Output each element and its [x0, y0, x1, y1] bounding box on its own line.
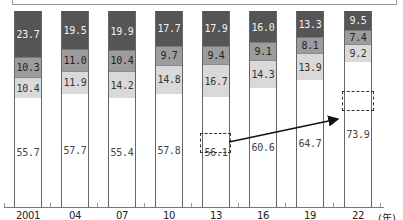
x-axis-tick	[50, 203, 51, 207]
segment-2: 8.1	[297, 37, 323, 53]
x-axis-unit: (年)	[378, 210, 396, 220]
value-label: 9.5	[349, 15, 366, 26]
value-label: 8.1	[301, 40, 318, 51]
segment-1: 11.9	[62, 71, 88, 94]
value-label: 57.7	[64, 145, 87, 156]
bar-16: 60.614.39.116.0	[249, 11, 277, 207]
x-tick-label: 13	[196, 210, 236, 220]
value-label: 13.3	[299, 19, 322, 30]
value-label: 14.2	[111, 80, 134, 91]
x-tick-label: 2001	[8, 210, 48, 220]
segment-0: 64.7	[297, 80, 323, 207]
highlight-box-22	[342, 91, 374, 111]
segment-3: 17.9	[203, 11, 229, 46]
x-tick-label: 16	[243, 210, 283, 220]
value-label: 16.7	[205, 76, 228, 87]
value-label: 73.9	[347, 129, 370, 140]
segment-1: 10.4	[15, 77, 41, 97]
value-label: 64.7	[299, 138, 322, 149]
value-label: 10.4	[111, 55, 134, 66]
value-label: 16.0	[252, 22, 275, 33]
value-label: 19.5	[64, 25, 87, 36]
segment-0: 55.7	[15, 98, 41, 207]
bar-13: 56.116.79.417.9	[202, 11, 230, 207]
x-tick-label: 07	[102, 210, 142, 220]
value-label: 9.2	[349, 48, 366, 59]
value-label: 9.7	[160, 50, 177, 61]
x-axis-tick	[285, 203, 286, 207]
value-label: 11.9	[64, 77, 87, 88]
segment-2: 7.4	[345, 30, 371, 45]
value-label: 14.8	[158, 74, 181, 85]
segment-3: 19.5	[62, 11, 88, 49]
bar-19: 64.713.98.113.3	[296, 11, 324, 207]
value-label: 23.7	[17, 29, 40, 40]
bar-07: 55.414.210.419.9	[108, 11, 136, 207]
value-label: 17.9	[205, 23, 228, 34]
segment-3: 23.7	[15, 11, 41, 57]
x-tick-label: 04	[55, 210, 95, 220]
x-axis-line	[4, 207, 384, 208]
segment-2: 9.7	[156, 46, 182, 65]
stacked-bar-chart: (年) 55.710.410.323.7200157.711.911.019.5…	[0, 0, 403, 220]
value-label: 10.3	[17, 62, 40, 73]
x-tick-label: 19	[290, 210, 330, 220]
segment-2: 10.3	[15, 57, 41, 77]
x-axis-tick	[380, 203, 381, 207]
segment-3: 16.0	[250, 11, 276, 42]
x-tick-label: 22	[338, 210, 378, 220]
segment-0: 57.7	[62, 94, 88, 207]
segment-1: 9.2	[345, 44, 371, 62]
segment-3: 17.7	[156, 11, 182, 46]
value-label: 17.7	[158, 23, 181, 34]
value-label: 14.3	[252, 69, 275, 80]
value-label: 57.8	[158, 145, 181, 156]
bar-04: 57.711.911.019.5	[61, 11, 89, 207]
value-label: 11.0	[64, 55, 87, 66]
x-axis-tick	[191, 203, 192, 207]
segment-2: 9.4	[203, 46, 229, 64]
value-label: 7.4	[349, 32, 366, 43]
value-label: 9.4	[207, 50, 224, 61]
x-axis-tick	[238, 203, 239, 207]
segment-1: 14.8	[156, 65, 182, 94]
x-axis-tick	[144, 203, 145, 207]
segment-2: 10.4	[109, 50, 135, 70]
value-label: 10.4	[17, 83, 40, 94]
x-axis-tick	[333, 203, 334, 207]
value-label: 19.9	[111, 26, 134, 37]
x-tick-label: 10	[149, 210, 189, 220]
value-label: 9.1	[254, 46, 271, 57]
segment-1: 13.9	[297, 53, 323, 80]
x-axis-tick	[4, 203, 5, 207]
bar-10: 57.814.89.717.7	[155, 11, 183, 207]
value-label: 55.4	[111, 147, 134, 158]
segment-2: 9.1	[250, 42, 276, 60]
segment-0: 55.4	[109, 98, 135, 207]
segment-0: 57.8	[156, 94, 182, 207]
highlight-box-13	[200, 133, 231, 153]
segment-2: 11.0	[62, 49, 88, 71]
segment-1: 16.7	[203, 64, 229, 97]
value-label: 60.6	[252, 142, 275, 153]
segment-1: 14.3	[250, 60, 276, 88]
bar-2001: 55.710.410.323.7	[14, 11, 42, 207]
segment-1: 14.2	[109, 71, 135, 99]
segment-0: 73.9	[345, 62, 371, 207]
segment-3: 19.9	[109, 11, 135, 50]
x-axis-tick	[97, 203, 98, 207]
segment-3: 13.3	[297, 11, 323, 37]
value-label: 13.9	[299, 62, 322, 73]
segment-0: 60.6	[250, 88, 276, 207]
segment-3: 9.5	[345, 11, 371, 30]
value-label: 55.7	[17, 147, 40, 158]
